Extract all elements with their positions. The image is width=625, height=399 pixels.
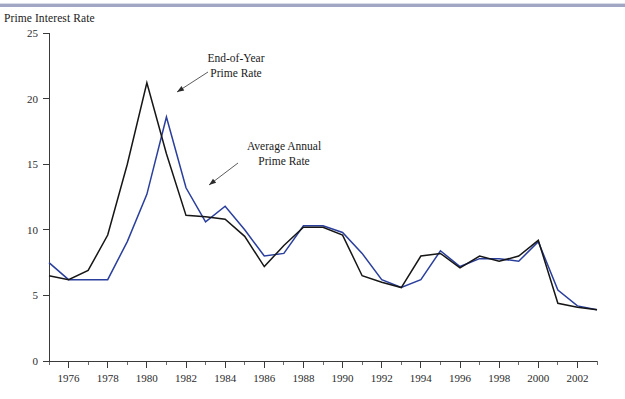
x-tick-label: 1994 bbox=[410, 372, 433, 384]
x-tick-label: 1982 bbox=[175, 372, 197, 384]
annotation-end-of-year-arrowhead bbox=[177, 86, 184, 92]
x-axis-ticks: 1976197819801982198419861988199019921994… bbox=[49, 361, 597, 384]
y-tick-label: 25 bbox=[27, 27, 39, 39]
prime-interest-rate-line-chart: 0510152025 19761978198019821984198619881… bbox=[0, 0, 625, 399]
x-tick-label: 1986 bbox=[253, 372, 276, 384]
annotation-end-of-year-line1: End-of-Year bbox=[208, 52, 265, 64]
x-tick-label: 1996 bbox=[449, 372, 472, 384]
y-tick-label: 20 bbox=[27, 93, 39, 105]
x-tick-label: 2002 bbox=[566, 372, 588, 384]
x-tick-label: 1990 bbox=[332, 372, 355, 384]
axes bbox=[49, 33, 597, 361]
data-series bbox=[49, 83, 597, 310]
x-tick-label: 1984 bbox=[214, 372, 237, 384]
annotations: End-of-YearPrime RateAverage AnnualPrime… bbox=[177, 52, 321, 185]
chart-page: Prime Interest Rate 0510152025 197619781… bbox=[0, 0, 625, 399]
annotation-average-annual-arrowhead bbox=[209, 179, 216, 185]
axis-spine bbox=[49, 33, 597, 361]
x-tick-label: 1980 bbox=[136, 372, 159, 384]
x-tick-label: 1976 bbox=[58, 372, 81, 384]
x-tick-label: 1992 bbox=[371, 372, 393, 384]
series-line-end-of-year-prime-rate bbox=[49, 83, 597, 310]
annotation-end-of-year-line2: Prime Rate bbox=[210, 67, 261, 79]
x-tick-label: 1978 bbox=[97, 372, 120, 384]
y-tick-label: 10 bbox=[27, 224, 39, 236]
annotation-average-annual-line2: Prime Rate bbox=[258, 155, 309, 167]
y-tick-label: 0 bbox=[33, 355, 39, 367]
y-axis-ticks: 0510152025 bbox=[27, 27, 49, 367]
x-tick-label: 1988 bbox=[292, 372, 315, 384]
x-tick-label: 2000 bbox=[527, 372, 550, 384]
y-tick-label: 15 bbox=[27, 158, 39, 170]
x-tick-label: 1998 bbox=[488, 372, 511, 384]
y-tick-label: 5 bbox=[33, 289, 39, 301]
annotation-average-annual-line1: Average Annual bbox=[247, 140, 321, 153]
